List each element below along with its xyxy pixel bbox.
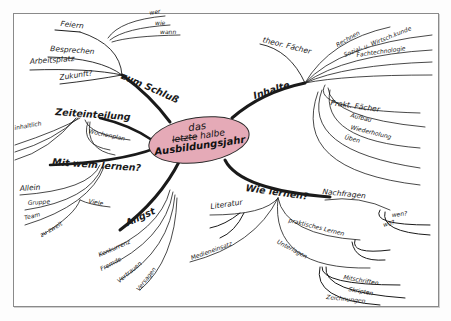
node-wann: wann (160, 29, 176, 35)
node-wie: wie (155, 20, 165, 26)
node-allein: Allein (19, 184, 40, 193)
node-feiern: Feiern (60, 20, 84, 30)
